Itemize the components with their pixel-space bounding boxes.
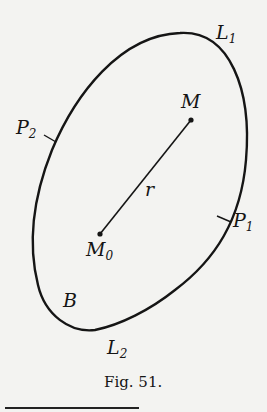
footnote-rule <box>5 407 139 409</box>
closed-curve <box>33 33 247 330</box>
label-r: r <box>145 180 154 199</box>
tick-P1 <box>217 216 231 222</box>
closed-contour-diagram <box>0 0 267 412</box>
point-M0 <box>97 231 102 236</box>
label-M: M <box>181 92 200 111</box>
label-B: B <box>63 291 77 310</box>
radius-line-r <box>100 120 191 234</box>
tick-P2 <box>44 135 56 142</box>
label-M0: M0 <box>86 240 113 262</box>
label-P2: P2 <box>16 118 36 140</box>
label-L1: L1 <box>216 23 236 45</box>
figure-caption: Fig. 51. <box>104 373 162 391</box>
point-M <box>188 117 193 122</box>
label-P1: P1 <box>233 211 253 233</box>
label-L2: L2 <box>107 338 127 360</box>
